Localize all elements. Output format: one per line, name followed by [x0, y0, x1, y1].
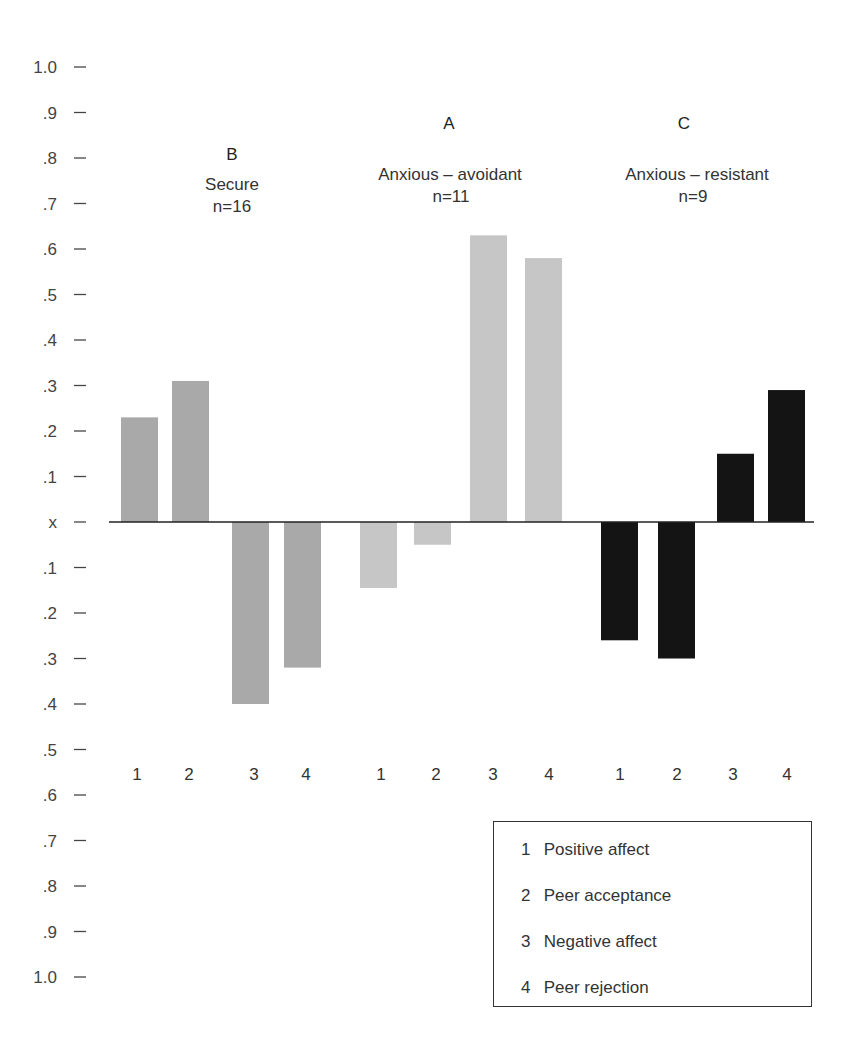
- y-tick-label: .2: [43, 422, 57, 441]
- group-n-label: n=11: [432, 187, 469, 206]
- x-category-label: 1: [132, 765, 141, 784]
- y-tick-label: .9: [43, 923, 57, 942]
- legend-item: 3 Negative affect: [521, 932, 657, 952]
- group-n-label: n=16: [213, 197, 251, 216]
- x-category-label: 2: [672, 765, 681, 784]
- group-title: Secure: [205, 175, 259, 194]
- legend-item-label: Negative affect: [544, 932, 657, 951]
- y-tick-label: .4: [43, 695, 57, 714]
- y-tick-label: .7: [43, 832, 57, 851]
- y-tick-label: .3: [43, 377, 57, 396]
- y-tick-label: .1: [43, 468, 57, 487]
- y-tick-label: .6: [43, 786, 57, 805]
- legend-item-label: Peer rejection: [544, 978, 649, 997]
- legend-item-label: Positive affect: [544, 840, 650, 859]
- group-letter: C: [678, 114, 690, 133]
- legend: 1 Positive affect 2 Peer acceptance 3 Ne…: [493, 821, 812, 1007]
- y-tick-label: .9: [43, 104, 57, 123]
- y-tick-label: .5: [43, 286, 57, 305]
- y-tick-label: 1.0: [33, 968, 57, 987]
- bar-B-3: [232, 522, 269, 704]
- y-tick-label: 1.0: [33, 58, 57, 77]
- x-category-label: 2: [184, 765, 193, 784]
- x-category-label: 4: [544, 765, 553, 784]
- bar-A-1: [360, 522, 397, 588]
- legend-item-number: 3: [521, 932, 539, 952]
- y-tick-label: .8: [43, 149, 57, 168]
- y-axis: 1.0.9.8.7.6.5.4.3.2.1x.1.2.3.4.5.6.7.8.9…: [33, 58, 86, 987]
- y-tick-label: .8: [43, 877, 57, 896]
- y-tick-label: .7: [43, 195, 57, 214]
- bar-C-3: [717, 454, 754, 522]
- bar-C-1: [601, 522, 638, 640]
- group-n-label: n=9: [679, 187, 708, 206]
- group-labels: BSecuren=16AAnxious – avoidantn=11CAnxio…: [205, 114, 769, 216]
- legend-item: 2 Peer acceptance: [521, 886, 671, 906]
- legend-item-label: Peer acceptance: [544, 886, 672, 905]
- x-category-label: 3: [488, 765, 497, 784]
- bar-A-2: [414, 522, 451, 545]
- bar-B-1: [121, 417, 158, 522]
- group-title: Anxious – avoidant: [378, 165, 522, 184]
- bar-C-2: [658, 522, 695, 659]
- x-category-label: 1: [376, 765, 385, 784]
- category-labels: 123412341234: [132, 765, 791, 784]
- group-title: Anxious – resistant: [625, 165, 769, 184]
- y-tick-label: .4: [43, 331, 57, 350]
- legend-item-number: 2: [521, 886, 539, 906]
- x-category-label: 4: [782, 765, 791, 784]
- legend-item-number: 1: [521, 840, 539, 860]
- x-category-label: 2: [431, 765, 440, 784]
- bar-A-4: [525, 258, 562, 522]
- group-letter: A: [443, 114, 455, 133]
- y-tick-label: .3: [43, 650, 57, 669]
- x-category-label: 1: [615, 765, 624, 784]
- legend-item-number: 4: [521, 978, 539, 998]
- bar-A-3: [470, 235, 507, 522]
- y-tick-label: .5: [43, 741, 57, 760]
- y-tick-label: x: [49, 513, 58, 532]
- y-tick-label: .2: [43, 604, 57, 623]
- x-category-label: 3: [249, 765, 258, 784]
- y-tick-label: .6: [43, 240, 57, 259]
- bar-C-4: [768, 390, 805, 522]
- legend-item: 1 Positive affect: [521, 840, 649, 860]
- y-tick-label: .1: [43, 559, 57, 578]
- legend-item: 4 Peer rejection: [521, 978, 649, 998]
- group-letter: B: [226, 145, 237, 164]
- bar-B-2: [172, 381, 209, 522]
- bar-B-4: [284, 522, 321, 668]
- x-category-label: 4: [301, 765, 310, 784]
- bars: [121, 235, 805, 704]
- x-category-label: 3: [728, 765, 737, 784]
